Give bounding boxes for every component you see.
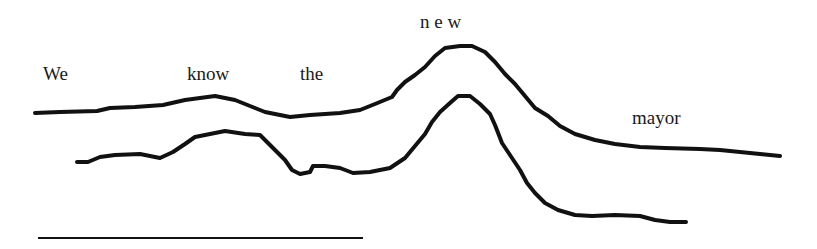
upper-pitch-contour (35, 46, 780, 156)
word-know: know (187, 64, 229, 83)
lower-pitch-contour (77, 96, 686, 222)
word-mayor: mayor (632, 108, 681, 127)
word-the: the (300, 64, 323, 83)
word-new: n e w (420, 12, 461, 31)
contour-svg (0, 0, 817, 249)
word-we: We (43, 64, 68, 83)
intonation-diagram: We know the n e w mayor (0, 0, 817, 249)
